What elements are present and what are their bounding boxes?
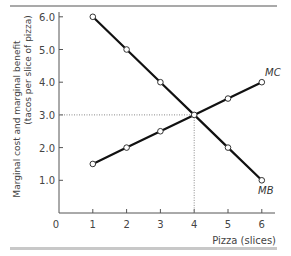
mb-line (93, 17, 262, 181)
mb-point (124, 47, 130, 53)
y-tick-label: 1.0 (39, 175, 55, 186)
y-tick-label: 6.0 (39, 12, 55, 23)
equilibrium-guides (59, 115, 194, 213)
y-tick-label: 4.0 (39, 77, 55, 88)
x-tick-label: 1 (90, 219, 96, 230)
mb-point (158, 79, 164, 85)
mb-point (259, 178, 265, 184)
mc-point (124, 145, 130, 151)
y-tick-label: 2.0 (39, 143, 55, 154)
x-tick-label: 3 (157, 219, 163, 230)
y-tick-label: 3.0 (39, 110, 55, 121)
x-axis-label: Pizza (slices) (212, 235, 276, 246)
mb-label: MB (258, 185, 274, 196)
mb-point (225, 145, 231, 151)
origin-label: 0 (53, 219, 59, 230)
bottom-rule (10, 247, 277, 250)
x-ticks: 123456 (90, 209, 265, 230)
mc-point (158, 128, 164, 134)
mc-point (259, 79, 265, 85)
mc-line (93, 82, 262, 164)
mb-point (90, 14, 96, 20)
y-axis-label: Marginal cost and marginal benefit (12, 40, 22, 198)
series-group (90, 14, 265, 183)
x-tick-label: 5 (225, 219, 231, 230)
mb-point (191, 112, 197, 118)
mc-point (225, 96, 231, 102)
y-tick-label: 5.0 (39, 45, 55, 56)
x-tick-label: 6 (259, 219, 265, 230)
mc-point (90, 161, 96, 167)
y-axis-label-line2: (tacos per slice of pizza) (23, 15, 33, 125)
chart: Marginal cost and marginal benefit (taco… (0, 0, 291, 256)
y-axis-sublabel: (tacos per slice of pizza) (23, 15, 33, 125)
y-axis-label-line1: Marginal cost and marginal benefit (12, 40, 22, 198)
x-tick-label: 4 (191, 219, 197, 230)
x-tick-label: 2 (123, 219, 129, 230)
mc-label: MC (265, 67, 281, 78)
